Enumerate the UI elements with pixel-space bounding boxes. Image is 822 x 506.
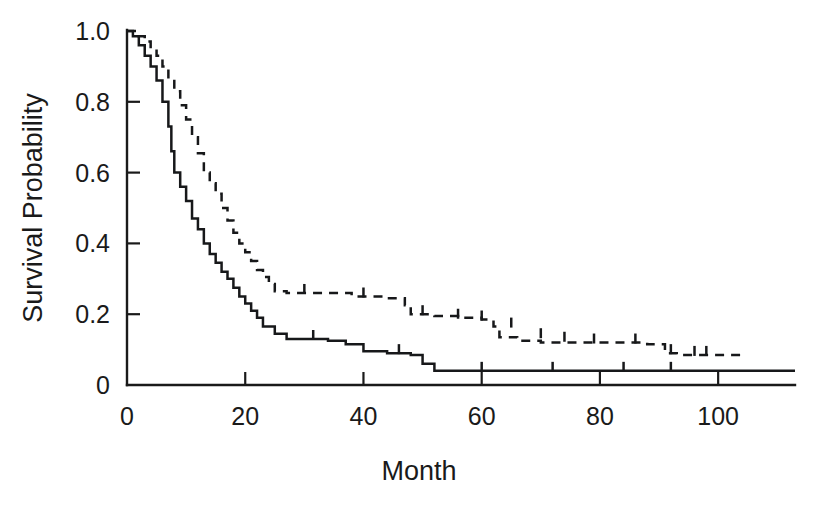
x-axis-ticks: 020406080100: [120, 372, 739, 430]
x-tick-label-0: 0: [120, 402, 134, 430]
x-tick-label-100: 100: [697, 402, 739, 430]
series-1-solid-curve: [127, 31, 795, 372]
y-axis-title: Survival Probability: [18, 93, 48, 323]
km-curve-group-1: [127, 31, 795, 371]
x-axis-title: Month: [381, 456, 456, 486]
y-axis-ticks: 00.20.40.60.81.0: [75, 17, 140, 399]
series-2-dashed-curve: [127, 31, 742, 356]
y-tick-label-1.0: 1.0: [75, 17, 110, 45]
figure-root: 00.20.40.60.81.0 020406080100 Month Surv…: [0, 0, 822, 506]
y-tick-label-0.6: 0.6: [75, 159, 110, 187]
y-tick-label-0.2: 0.2: [75, 300, 110, 328]
x-tick-label-40: 40: [350, 402, 378, 430]
x-tick-label-80: 80: [586, 402, 614, 430]
km-curve-group-2: [127, 31, 742, 355]
y-tick-label-0.4: 0.4: [75, 229, 110, 257]
data-series-group: [127, 31, 795, 372]
x-tick-label-20: 20: [231, 402, 259, 430]
y-tick-label-0: 0: [96, 371, 110, 399]
survival-curve-chart: 00.20.40.60.81.0 020406080100 Month Surv…: [0, 0, 822, 506]
y-tick-label-0.8: 0.8: [75, 88, 110, 116]
x-tick-label-60: 60: [468, 402, 496, 430]
